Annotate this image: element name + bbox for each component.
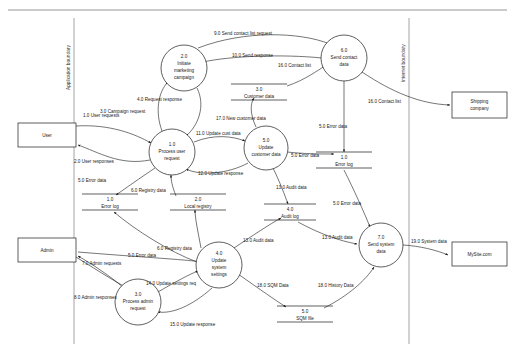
flow-p4-p3-response-line <box>158 288 212 312</box>
flow-contact-list-store-line <box>287 66 325 86</box>
flow-label-5e: 5.0 Error data <box>128 253 157 258</box>
ds1left-number: 1.0 <box>107 197 114 202</box>
flow-campaign-request-line <box>158 82 168 131</box>
p2-line2: marketing <box>174 68 195 73</box>
flow-label-5b: 5.0 Error data <box>319 124 348 129</box>
flow-label-13a: 13.0 Audit data <box>276 185 307 190</box>
p5-line0: 5.0 <box>263 138 270 143</box>
flow-system-data-line <box>403 245 448 255</box>
flow-label-14: 14.0 Update settings req <box>146 281 196 286</box>
flow-request-response-line <box>186 88 201 136</box>
p6-line2: data <box>340 62 349 67</box>
flow-label-2: 2.0 User responses <box>74 159 115 164</box>
flow-label-9: 9.0 Send contact list request <box>214 31 273 36</box>
data-store-audit-log[interactable]: 4.0 Audit log <box>264 204 316 220</box>
ds4-number: 4.0 <box>287 207 294 212</box>
flow-update-cust-data-line <box>194 137 245 142</box>
flow-label-5a: 5.0 Error data <box>78 178 107 183</box>
p1-line1: Process user <box>159 149 186 154</box>
flow-new-customer-data-line <box>251 98 256 127</box>
p2-line1: Initiate <box>177 61 191 66</box>
flow-label-13b: 13.0 Audit data <box>243 238 274 243</box>
process-process-user-request[interactable]: 1.0 Process user request <box>149 129 195 175</box>
p6-line1: Send contact <box>331 55 359 60</box>
flow-user-requests-line <box>76 126 151 143</box>
ds2-name: Local registry <box>184 204 212 209</box>
ds1left-name: Error log <box>101 204 119 209</box>
flow-p4-audit-line <box>234 218 281 248</box>
internet-boundary-label: Internet boundary <box>401 44 406 82</box>
entity-user-label: User <box>42 133 52 138</box>
entity-shipping-line1: Shipping <box>471 99 489 104</box>
flow-label-5d: 5.0 Error data <box>333 201 362 206</box>
flow-label-16b: 16.0 Contact list <box>368 99 402 104</box>
entity-shipping-company[interactable]: Shipping company <box>452 92 507 118</box>
flow-send-contact-list-request-line <box>198 35 330 48</box>
flow-sqm-data-line <box>238 274 286 307</box>
ds5-name: SQM file <box>296 316 314 321</box>
p4-line0: 4.0 <box>216 251 223 256</box>
flow-label-4: 4.0 Request response <box>137 97 182 102</box>
entity-admin[interactable]: Admin <box>18 238 76 262</box>
p7-line1: Send system <box>368 242 395 247</box>
flow-label-7: 7.0 Admin requests <box>82 261 122 266</box>
flow-label-12: 12.0 Update response <box>198 171 244 176</box>
p1-line0: 1.0 <box>169 142 176 147</box>
p5-line1: Update <box>259 145 274 150</box>
ds1right-number: 1.0 <box>341 155 348 160</box>
p3-line1: Process admin <box>123 299 154 304</box>
p6-line0: 6.0 <box>341 48 348 53</box>
data-store-error-log-left[interactable]: 1.0 Error log <box>82 194 138 210</box>
p2-line0: 2.0 <box>181 54 188 59</box>
flow-p4-registry-line <box>195 210 201 248</box>
flow-label-17: 17.0 New customer data <box>216 116 266 121</box>
flow-error-p7-line <box>344 170 370 227</box>
flow-label-3: 3.0 Campaign request <box>100 109 146 114</box>
p3-line0: 3.0 <box>135 292 142 297</box>
p5-line2: customer data <box>251 152 281 157</box>
entity-mysite-label: MySite.com <box>468 252 492 257</box>
p4-line3: settings <box>211 272 228 277</box>
p2-line3: campaign <box>174 75 194 80</box>
flow-label-18a: 18.0 SQM Data <box>257 283 289 288</box>
ds2-number: 2.0 <box>195 197 202 202</box>
p7-line0: 7.0 <box>378 235 385 240</box>
dfd-canvas: Application boundary Internet boundary <box>0 0 513 354</box>
process-update-customer-data[interactable]: 5.0 Update customer data <box>244 126 288 170</box>
process-send-contact-data[interactable]: 6.0 Send contact data <box>321 35 367 81</box>
data-store-sqm-file[interactable]: 5.0 SQM file <box>277 306 333 322</box>
entity-mysite[interactable]: MySite.com <box>452 242 507 266</box>
p3-line2: request <box>130 306 146 311</box>
flow-label-11: 11.0 Update cust data <box>196 131 241 136</box>
flow-label-16a: 16.0 Contact list <box>278 63 312 68</box>
data-store-customer-data[interactable]: 3.0 Customer data <box>231 84 287 100</box>
entity-shipping-line2: company <box>470 106 489 111</box>
flow-label-10: 10.0 Send response <box>232 53 274 58</box>
process-initiate-marketing-campaign[interactable]: 2.0 Initiate marketing campaign <box>161 45 207 91</box>
flow-label-15: 15.0 Update response <box>170 322 216 327</box>
ds3-name: Customer data <box>244 94 275 99</box>
process-send-system-data[interactable]: 7.0 Send system data <box>359 223 403 267</box>
p7-line2: data <box>377 249 386 254</box>
p4-line2: system <box>212 265 227 270</box>
flow-audit-p7-line <box>298 222 357 244</box>
entity-admin-label: Admin <box>40 248 53 253</box>
data-store-error-log-right[interactable]: 1.0 Error log <box>316 152 372 168</box>
ds1right-name: Error log <box>335 162 353 167</box>
data-store-local-registry[interactable]: 2.0 Local registry <box>170 194 226 210</box>
ds3-number: 3.0 <box>256 87 263 92</box>
flow-label-5c: 5.0 Error data <box>291 153 320 158</box>
ds4-name: Audit log <box>281 214 299 219</box>
entity-user[interactable]: User <box>18 123 76 147</box>
p4-line1: Update <box>212 258 227 263</box>
flow-label-6a: 6.0 Registry data <box>131 188 166 193</box>
ds5-number: 5.0 <box>302 309 309 314</box>
flow-label-13c: 13.0 Audit data <box>322 235 353 240</box>
process-update-system-settings[interactable]: 4.0 Update system settings <box>196 242 242 288</box>
flow-label-6b: 6.0 Registry data <box>157 246 192 251</box>
p1-line2: request <box>164 156 180 161</box>
flow-label-19: 19.0 System data <box>411 239 447 244</box>
flow-registry-data-p1-line <box>171 175 176 196</box>
application-boundary-label: Application boundary <box>66 45 71 90</box>
flow-label-8: 8.0 Admin responses <box>74 295 118 300</box>
